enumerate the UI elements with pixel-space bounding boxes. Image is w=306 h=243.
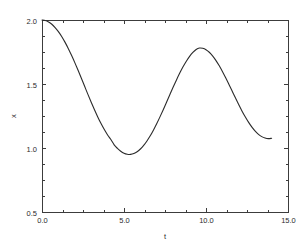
y-axis-tick-label: 2.0 [27, 17, 37, 26]
y-axis-tick-label: 1.0 [27, 145, 37, 154]
x-axis-tick-label: 5.0 [119, 216, 129, 225]
y-axis-tick-label: 0.5 [27, 209, 37, 218]
figure-container: 0.05.010.015.00.51.01.52.0tx [0, 0, 306, 243]
x-axis-tick-label: 0.0 [37, 216, 47, 225]
x-axis-tick-label: 15.0 [281, 216, 296, 225]
x-axis-label: t [164, 232, 167, 241]
data-line-series [42, 20, 272, 154]
y-axis-label: x [9, 114, 18, 118]
y-axis-tick-label: 1.5 [27, 81, 37, 90]
line-chart: 0.05.010.015.00.51.01.52.0tx [0, 0, 306, 243]
x-axis-tick-label: 10.0 [199, 216, 214, 225]
plot-frame [43, 21, 289, 213]
